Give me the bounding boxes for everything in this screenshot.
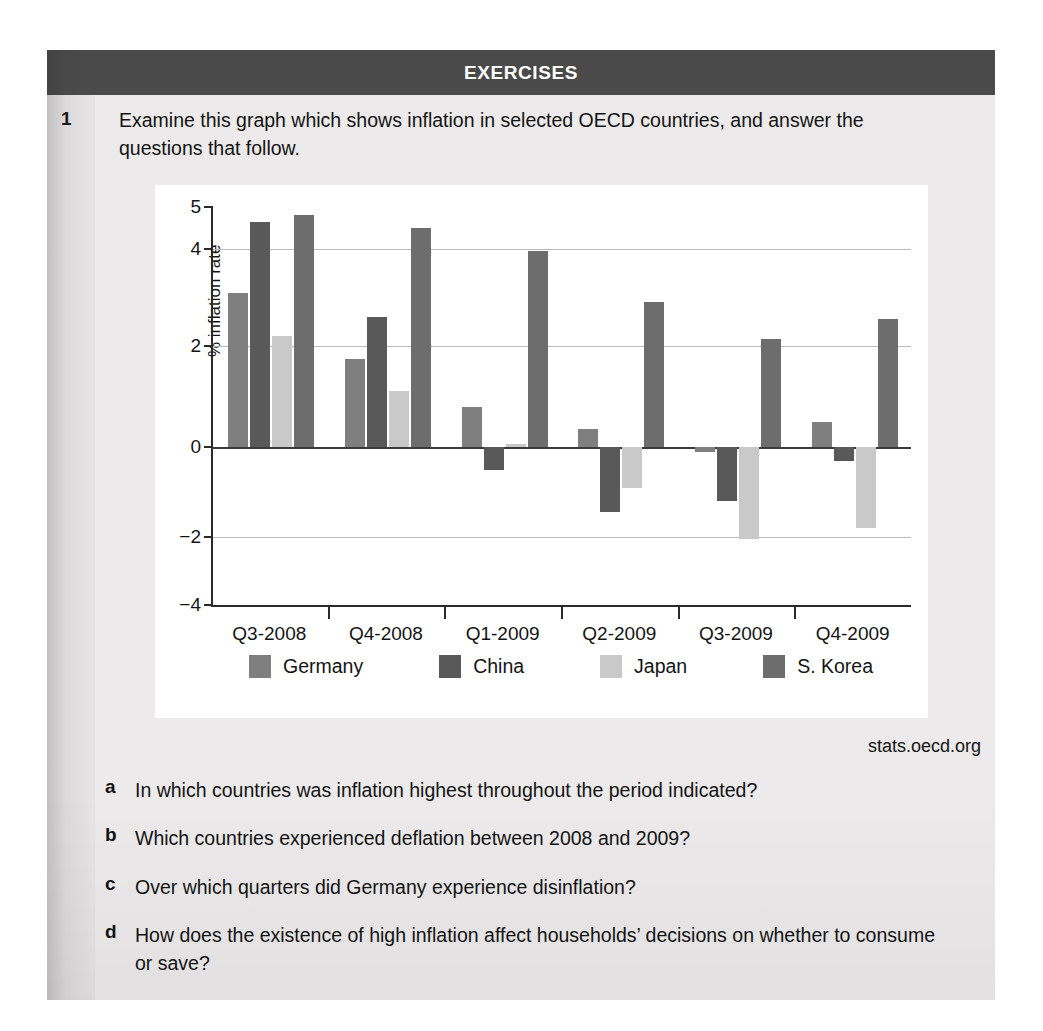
sub-question-text: How does the existence of high inflation… bbox=[135, 921, 947, 978]
category-separator bbox=[328, 607, 330, 619]
sub-questions-list: aIn which countries was inflation highes… bbox=[105, 776, 955, 997]
sub-question-row: dHow does the existence of high inflatio… bbox=[105, 921, 955, 978]
legend-swatch-icon bbox=[763, 655, 785, 678]
page-title: EXERCISES bbox=[464, 62, 578, 84]
y-axis-tick bbox=[204, 345, 213, 347]
question-number: 1 bbox=[61, 108, 89, 130]
sub-question-text: In which countries was inflation highest… bbox=[135, 776, 947, 804]
legend-label: China bbox=[473, 655, 524, 678]
bar bbox=[834, 447, 854, 461]
y-axis-title: % inflation rate bbox=[205, 245, 225, 357]
chart-panel: % inflation rate 5420−2−4 Q3-2008Q4-2008… bbox=[155, 185, 928, 718]
x-axis-tick-label: Q1-2009 bbox=[444, 623, 561, 645]
y-axis-tick-label: 5 bbox=[165, 196, 201, 218]
bar bbox=[578, 429, 598, 447]
bar bbox=[250, 222, 270, 447]
y-axis-tick-label: 2 bbox=[165, 335, 201, 357]
legend-item-japan: Japan bbox=[600, 655, 687, 678]
x-axis-tick-label: Q3-2009 bbox=[678, 623, 795, 645]
bar bbox=[739, 447, 759, 539]
bar bbox=[484, 447, 504, 470]
x-axis-tick-label: Q4-2008 bbox=[328, 623, 445, 645]
bar bbox=[761, 339, 781, 447]
y-axis-tick bbox=[204, 206, 213, 208]
y-axis-tick-label: −2 bbox=[165, 526, 201, 548]
x-axis-tick-label: Q4-2009 bbox=[794, 623, 911, 645]
bar bbox=[717, 447, 737, 501]
sub-question-text: Which countries experienced deflation be… bbox=[135, 824, 947, 852]
legend-swatch-icon bbox=[249, 655, 271, 678]
category-separator bbox=[561, 607, 563, 619]
bar bbox=[812, 422, 832, 447]
bar bbox=[644, 302, 664, 447]
bar-chart-plot-area: % inflation rate 5420−2−4 Q3-2008Q4-2008… bbox=[211, 207, 911, 607]
bar bbox=[528, 251, 548, 447]
y-axis-tick bbox=[204, 604, 213, 606]
zero-line bbox=[211, 447, 911, 449]
worksheet-page: EXERCISES 1 Examine this graph which sho… bbox=[47, 50, 995, 1000]
y-axis-tick-label: −4 bbox=[165, 594, 201, 616]
bar bbox=[695, 447, 715, 452]
y-axis-tick bbox=[204, 248, 213, 250]
y-axis-tick bbox=[204, 536, 213, 538]
y-axis-line bbox=[211, 207, 213, 607]
category-separator bbox=[678, 607, 680, 619]
bar bbox=[878, 319, 898, 447]
bar bbox=[272, 336, 292, 447]
gridline bbox=[211, 249, 911, 250]
sub-question-letter: c bbox=[105, 873, 135, 901]
y-axis-tick-label: 4 bbox=[165, 238, 201, 260]
category-separator bbox=[794, 607, 796, 619]
sub-question-text: Over which quarters did Germany experien… bbox=[135, 873, 947, 901]
gridline bbox=[211, 346, 911, 347]
chart-source-caption: stats.oecd.org bbox=[868, 736, 981, 757]
chart-legend: GermanyChinaJapanS. Korea bbox=[211, 655, 911, 678]
sub-question-row: cOver which quarters did Germany experie… bbox=[105, 873, 955, 901]
y-axis-tick-label: 0 bbox=[165, 436, 201, 458]
page-left-gutter bbox=[47, 95, 95, 1000]
sub-question-letter: d bbox=[105, 921, 135, 978]
sub-question-row: aIn which countries was inflation highes… bbox=[105, 776, 955, 804]
legend-swatch-icon bbox=[600, 655, 622, 678]
legend-label: S. Korea bbox=[797, 655, 873, 678]
bar bbox=[506, 444, 526, 447]
bar bbox=[856, 447, 876, 528]
bar bbox=[389, 391, 409, 447]
sub-question-letter: a bbox=[105, 776, 135, 804]
question-stem: Examine this graph which shows inflation… bbox=[119, 106, 939, 163]
legend-item-s-korea: S. Korea bbox=[763, 655, 873, 678]
bar bbox=[600, 447, 620, 512]
bar bbox=[462, 407, 482, 447]
gridline bbox=[211, 537, 911, 538]
legend-item-china: China bbox=[439, 655, 524, 678]
legend-item-germany: Germany bbox=[249, 655, 363, 678]
legend-label: Japan bbox=[634, 655, 687, 678]
sub-question-row: bWhich countries experienced deflation b… bbox=[105, 824, 955, 852]
bar bbox=[622, 447, 642, 488]
x-axis-tick-label: Q3-2008 bbox=[211, 623, 328, 645]
x-axis-tick-label: Q2-2009 bbox=[561, 623, 678, 645]
category-separator bbox=[444, 607, 446, 619]
sub-question-letter: b bbox=[105, 824, 135, 852]
legend-swatch-icon bbox=[439, 655, 461, 678]
bar bbox=[345, 359, 365, 447]
bar bbox=[411, 228, 431, 447]
bar bbox=[228, 293, 248, 447]
y-axis-tick bbox=[204, 446, 213, 448]
exercises-header-bar: EXERCISES bbox=[47, 50, 995, 95]
bar bbox=[294, 215, 314, 447]
bar bbox=[367, 317, 387, 447]
legend-label: Germany bbox=[283, 655, 363, 678]
